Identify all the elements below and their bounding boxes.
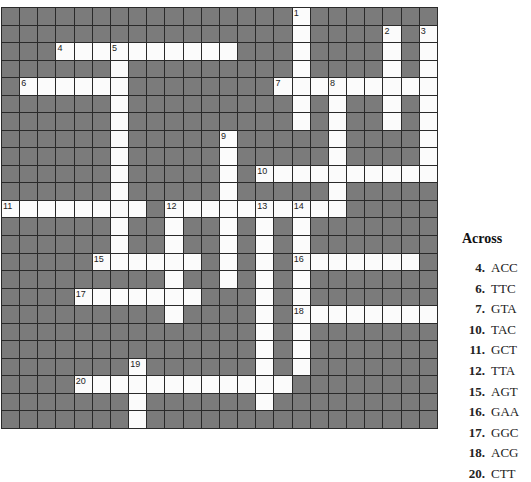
crossword-cell-open[interactable]	[184, 376, 201, 393]
crossword-cell-open[interactable]	[420, 61, 437, 78]
crossword-cell-open[interactable]: 4	[56, 43, 73, 60]
crossword-cell-open[interactable]	[329, 131, 346, 148]
crossword-cell-open[interactable]	[293, 166, 310, 183]
crossword-cell-open[interactable]	[256, 289, 273, 306]
crossword-cell-open[interactable]: 20	[75, 376, 92, 393]
crossword-cell-open[interactable]: 3	[420, 26, 437, 43]
crossword-cell-open[interactable]: 6	[20, 78, 37, 95]
crossword-cell-open[interactable]	[165, 289, 182, 306]
crossword-cell-open[interactable]	[93, 376, 110, 393]
crossword-cell-open[interactable]: 16	[293, 254, 310, 271]
crossword-cell-open[interactable]	[383, 254, 400, 271]
crossword-cell-open[interactable]	[220, 271, 237, 288]
crossword-cell-open[interactable]	[220, 148, 237, 165]
crossword-cell-open[interactable]	[165, 43, 182, 60]
crossword-cell-open[interactable]	[129, 376, 146, 393]
crossword-cell-open[interactable]	[311, 78, 328, 95]
crossword-cell-open[interactable]	[402, 166, 419, 183]
crossword-cell-open[interactable]	[402, 78, 419, 95]
crossword-cell-open[interactable]: 12	[165, 201, 182, 218]
crossword-cell-open[interactable]	[111, 78, 128, 95]
crossword-cell-open[interactable]	[311, 306, 328, 323]
crossword-cell-open[interactable]	[293, 271, 310, 288]
crossword-cell-open[interactable]	[165, 306, 182, 323]
crossword-cell-open[interactable]: 14	[293, 201, 310, 218]
crossword-cell-open[interactable]: 5	[111, 43, 128, 60]
crossword-cell-open[interactable]: 13	[256, 201, 273, 218]
crossword-cell-open[interactable]	[111, 131, 128, 148]
crossword-cell-open[interactable]	[220, 166, 237, 183]
crossword-cell-open[interactable]	[256, 306, 273, 323]
crossword-cell-open[interactable]	[129, 254, 146, 271]
crossword-cell-open[interactable]	[311, 201, 328, 218]
crossword-cell-open[interactable]	[365, 254, 382, 271]
crossword-cell-open[interactable]	[347, 306, 364, 323]
crossword-cell-open[interactable]	[420, 78, 437, 95]
crossword-cell-open[interactable]	[256, 254, 273, 271]
crossword-cell-open[interactable]	[402, 306, 419, 323]
crossword-cell-open[interactable]	[256, 394, 273, 411]
crossword-cell-open[interactable]	[56, 78, 73, 95]
crossword-cell-open[interactable]	[256, 324, 273, 341]
crossword-cell-open[interactable]	[365, 306, 382, 323]
crossword-cell-open[interactable]	[129, 289, 146, 306]
crossword-cell-open[interactable]	[329, 201, 346, 218]
crossword-cell-open[interactable]	[420, 306, 437, 323]
crossword-cell-open[interactable]	[420, 131, 437, 148]
crossword-cell-open[interactable]	[256, 376, 273, 393]
crossword-cell-open[interactable]	[111, 148, 128, 165]
crossword-cell-open[interactable]	[202, 201, 219, 218]
crossword-cell-open[interactable]	[256, 271, 273, 288]
crossword-cell-open[interactable]	[184, 254, 201, 271]
crossword-cell-open[interactable]	[311, 254, 328, 271]
crossword-cell-open[interactable]	[111, 236, 128, 253]
crossword-cell-open[interactable]	[383, 78, 400, 95]
crossword-cell-open[interactable]	[147, 376, 164, 393]
crossword-cell-open[interactable]	[111, 61, 128, 78]
crossword-cell-open[interactable]	[111, 201, 128, 218]
crossword-cell-open[interactable]	[293, 61, 310, 78]
crossword-cell-open[interactable]	[220, 183, 237, 200]
crossword-cell-open[interactable]: 15	[93, 254, 110, 271]
crossword-cell-open[interactable]	[129, 411, 146, 428]
crossword-cell-open[interactable]	[420, 113, 437, 130]
crossword-cell-open[interactable]: 8	[329, 78, 346, 95]
crossword-cell-open[interactable]	[274, 166, 291, 183]
crossword-cell-open[interactable]	[111, 166, 128, 183]
crossword-cell-open[interactable]: 18	[293, 306, 310, 323]
crossword-cell-open[interactable]	[93, 78, 110, 95]
crossword-cell-open[interactable]	[402, 254, 419, 271]
crossword-cell-open[interactable]	[274, 376, 291, 393]
crossword-cell-open[interactable]	[111, 254, 128, 271]
crossword-cell-open[interactable]	[20, 201, 37, 218]
crossword-cell-open[interactable]	[56, 201, 73, 218]
crossword-cell-open[interactable]	[383, 96, 400, 113]
crossword-cell-open[interactable]	[93, 43, 110, 60]
crossword-cell-open[interactable]	[293, 341, 310, 358]
crossword-cell-open[interactable]: 19	[129, 359, 146, 376]
crossword-cell-open[interactable]: 1	[293, 8, 310, 25]
crossword-cell-open[interactable]	[329, 96, 346, 113]
crossword-cell-open[interactable]	[311, 166, 328, 183]
crossword-cell-open[interactable]	[165, 376, 182, 393]
crossword-cell-open[interactable]	[111, 96, 128, 113]
crossword-cell-open[interactable]: 10	[256, 166, 273, 183]
crossword-cell-open[interactable]	[293, 113, 310, 130]
crossword-cell-open[interactable]	[165, 236, 182, 253]
crossword-cell-open[interactable]	[347, 78, 364, 95]
crossword-cell-open[interactable]	[256, 341, 273, 358]
crossword-cell-open[interactable]	[184, 289, 201, 306]
crossword-cell-open[interactable]	[220, 254, 237, 271]
crossword-cell-open[interactable]	[329, 254, 346, 271]
crossword-cell-open[interactable]	[383, 113, 400, 130]
crossword-cell-open[interactable]	[293, 324, 310, 341]
crossword-cell-open[interactable]	[347, 254, 364, 271]
crossword-cell-open[interactable]	[256, 236, 273, 253]
crossword-cell-open[interactable]	[329, 113, 346, 130]
crossword-cell-open[interactable]	[93, 201, 110, 218]
crossword-cell-open[interactable]	[165, 218, 182, 235]
crossword-cell-open[interactable]	[220, 376, 237, 393]
crossword-cell-open[interactable]	[165, 254, 182, 271]
crossword-cell-open[interactable]	[347, 166, 364, 183]
crossword-cell-open[interactable]	[329, 306, 346, 323]
